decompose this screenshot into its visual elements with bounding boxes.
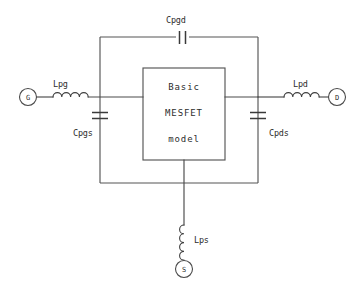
inductor-lpd bbox=[284, 93, 319, 97]
lpg-coil-path bbox=[53, 93, 88, 97]
terminal-source-label: S bbox=[182, 266, 186, 274]
lps-coil-path bbox=[180, 225, 184, 260]
model-box-line-3: model bbox=[168, 134, 200, 144]
capacitor-cpds-label: Cpds bbox=[269, 128, 289, 138]
schematic-canvas: Cpgd Basic MESFET model Lpg Cpgs G bbox=[0, 0, 364, 287]
circuit-schematic: Cpgd Basic MESFET model Lpg Cpgs G bbox=[0, 0, 364, 287]
inductor-lps bbox=[180, 225, 184, 260]
terminal-drain-label: D bbox=[335, 94, 339, 102]
model-box-line-1: Basic bbox=[168, 82, 200, 92]
inductor-lpg bbox=[53, 93, 88, 97]
model-box-line-2: MESFET bbox=[165, 108, 203, 118]
lpd-coil-path bbox=[284, 93, 319, 97]
inductor-lps-label: Lps bbox=[194, 235, 209, 245]
capacitor-cpgs-label: Cpgs bbox=[73, 128, 93, 138]
terminal-gate: G bbox=[20, 89, 37, 106]
terminal-source: S bbox=[176, 261, 193, 278]
capacitor-cpgd-label: Cpgd bbox=[166, 15, 186, 25]
terminal-gate-label: G bbox=[26, 94, 30, 102]
inductor-lpg-label: Lpg bbox=[53, 79, 68, 89]
capacitor-cpgd bbox=[180, 31, 186, 44]
inductor-lpd-label: Lpd bbox=[293, 79, 308, 89]
terminal-drain: D bbox=[329, 89, 346, 106]
